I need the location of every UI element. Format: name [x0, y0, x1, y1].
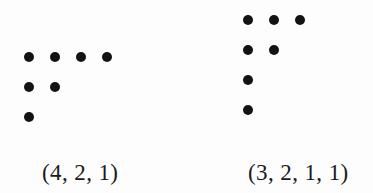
ferrers-diagram-figure: (4, 2, 1) (3, 2, 1, 1)	[0, 0, 373, 193]
ferrers-dot	[24, 82, 34, 92]
ferrers-dot	[76, 52, 86, 62]
ferrers-row	[243, 75, 321, 105]
ferrers-row	[243, 45, 321, 75]
partition-label-right: (3, 2, 1, 1)	[248, 160, 349, 186]
ferrers-rows-left	[24, 52, 128, 142]
ferrers-dot	[50, 52, 60, 62]
ferrers-dot	[243, 15, 253, 25]
ferrers-dot	[50, 82, 60, 92]
ferrers-row	[24, 82, 128, 112]
ferrers-row	[243, 105, 321, 135]
ferrers-dot	[243, 75, 253, 85]
ferrers-dot	[269, 45, 279, 55]
ferrers-dot	[24, 52, 34, 62]
partition-label-left: (4, 2, 1)	[42, 160, 118, 186]
ferrers-dot	[102, 52, 112, 62]
ferrers-row	[243, 15, 321, 45]
ferrers-dot	[24, 112, 34, 122]
ferrers-dot	[295, 15, 305, 25]
ferrers-dot	[243, 45, 253, 55]
ferrers-row	[24, 112, 128, 142]
ferrers-rows-right	[243, 15, 321, 135]
ferrers-row	[24, 52, 128, 82]
ferrers-dot	[243, 105, 253, 115]
ferrers-dot	[269, 15, 279, 25]
